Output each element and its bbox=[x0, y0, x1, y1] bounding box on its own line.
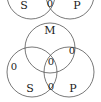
top-label-s: S bbox=[20, 0, 28, 11]
top-label-p: P bbox=[73, 0, 80, 11]
venn-diagram-canvas: S 0 P M 0 0 0 S 0 P bbox=[0, 0, 101, 102]
bottom-label-zero-m-s-p: 0 bbox=[48, 57, 54, 67]
bottom-label-zero-m-and-p: 0 bbox=[69, 46, 75, 56]
bottom-label-p: P bbox=[69, 83, 76, 94]
top-circle-p bbox=[46, 0, 94, 19]
bottom-label-zero-s-and-p: 0 bbox=[48, 82, 54, 92]
top-label-zero-s-and-p: 0 bbox=[47, 0, 53, 9]
bottom-label-m: M bbox=[44, 25, 55, 36]
bottom-label-s: S bbox=[26, 83, 34, 94]
bottom-label-zero-s-only: 0 bbox=[11, 62, 17, 72]
